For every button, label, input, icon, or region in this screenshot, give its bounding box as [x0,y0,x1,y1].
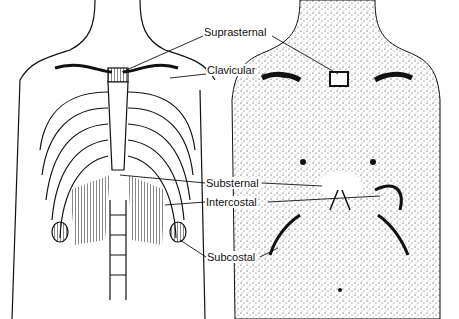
label-intercostal: Intercostal [205,196,258,208]
label-subcostal: Subcostal [206,251,256,263]
retraction-diagram: Suprasternal Clavicular Substernal Inter… [0,0,459,319]
label-suprasternal: Suprasternal [203,26,267,38]
illustration [0,0,459,319]
label-clavicular: Clavicular [206,64,256,76]
skeletal-torso [12,0,215,319]
label-substernal: Substernal [205,177,260,189]
surface-torso [232,0,440,319]
